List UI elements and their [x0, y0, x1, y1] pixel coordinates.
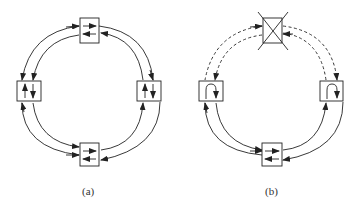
link-b-inner-bottom-right [283, 103, 326, 150]
link-a-inner-bottom-right [101, 103, 143, 150]
link-a-outer-left-bottom [22, 103, 79, 155]
panel-a [17, 18, 161, 166]
node-a-top [80, 18, 99, 43]
node-b-bottom [262, 143, 282, 166]
ring-diagram [0, 0, 361, 213]
node-a-left [17, 81, 41, 101]
link-b-outer-left-bottom [205, 103, 262, 155]
link-b-dashed-inner-left [215, 35, 262, 80]
panel-b [199, 12, 343, 166]
link-b-dashed-inner-right [283, 33, 326, 80]
node-a-right [137, 81, 161, 101]
link-a-inner-left-bottom [33, 103, 79, 147]
caption-a: (a) [82, 185, 94, 197]
link-a-outer-top-left [22, 26, 79, 80]
link-a-inner-right-top [101, 33, 143, 80]
link-a-outer-right-bottom [101, 102, 160, 160]
link-a-inner-top-left [33, 35, 79, 80]
link-b-outer-right-bottom [283, 102, 343, 160]
caption-b: (b) [265, 185, 278, 197]
node-a-bottom [80, 143, 99, 166]
link-b-dashed-outer-left [205, 26, 262, 80]
